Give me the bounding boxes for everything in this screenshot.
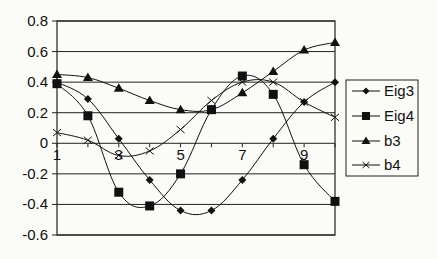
square-icon [83,111,92,120]
legend-label: Eig3 [384,82,414,99]
diamond-icon [115,135,123,143]
series-b3 [52,37,340,113]
series-line [57,82,335,215]
line-chart: 0.80.60.40.20-0.2-0.4-0.6 13579 Eig3 Eig… [0,0,437,259]
triangle-icon [299,45,309,54]
square-icon [176,169,185,178]
square-icon [145,201,154,210]
x-tick-label: 5 [176,146,184,163]
triangle-icon [330,37,340,46]
y-tick-label: -0.6 [22,226,48,243]
y-tick-label: -0.2 [22,165,48,182]
gridlines [57,21,335,235]
y-tick-label: 0.8 [27,12,48,29]
series-eig4 [53,72,340,211]
y-axis: 0.80.60.40.20-0.2-0.4-0.6 [22,12,57,243]
square-icon [362,112,370,120]
diamond-icon [177,207,185,215]
y-tick-label: 0 [40,134,48,151]
legend: Eig3 Eig4 b3 b4 [346,80,418,176]
x-icon [84,137,92,144]
diamond-icon [207,207,215,215]
x-icon [146,147,154,154]
legend-label: Eig4 [384,107,414,124]
legend-label: b3 [384,132,401,149]
triangle-icon [268,66,278,75]
x-icon [207,97,215,104]
series-lines [52,37,340,214]
square-icon [269,90,278,99]
series-line [57,42,335,111]
triangle-icon [114,83,124,92]
y-tick-label: 0.6 [27,43,48,60]
triangle-icon [52,70,62,79]
triangle-icon [237,88,247,97]
square-icon [53,79,62,88]
square-icon [300,160,309,169]
y-tick-label: 0.2 [27,104,48,121]
plot-area [57,21,335,235]
plot-frame [57,21,335,235]
square-icon [114,188,123,197]
diamond-icon [331,78,339,86]
y-tick-label: -0.4 [22,195,48,212]
square-icon [331,197,340,206]
series-line [57,80,335,157]
x-tick-label: 1 [53,146,61,163]
legend-label: b4 [384,156,401,173]
x-tick-label: 7 [238,146,246,163]
y-tick-label: 0.4 [27,73,48,90]
x-icon [177,126,185,133]
